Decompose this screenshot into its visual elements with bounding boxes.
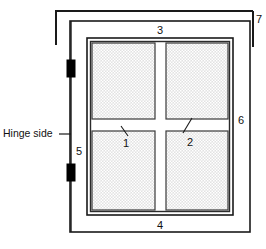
hinge-lower-icon [67,164,75,181]
glass-pane-top-left [92,43,155,119]
callout-7-label: 7 [256,13,262,25]
callout-3-label: 3 [157,24,163,36]
hinge-upper-icon [67,60,75,77]
callout-5-label: 5 [76,145,82,157]
glass-pane-bottom-right [166,131,228,210]
window-diagram: 1 2 3 4 5 6 7 Hinge side [0,0,266,249]
glass-pane-top-right [166,43,228,119]
hinge-side-label: Hinge side [3,127,53,139]
diagram-canvas: 1 2 3 4 5 6 7 Hinge side [0,0,266,249]
callout-1-label: 1 [123,137,129,149]
muntin-horizontal [92,120,228,130]
callout-6-label: 6 [238,114,244,126]
callout-2-label: 2 [187,136,193,148]
callout-4-label: 4 [157,219,163,231]
